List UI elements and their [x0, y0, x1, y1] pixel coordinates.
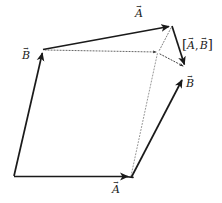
- a-top-vector: [43, 27, 169, 50]
- label-a-top: A: [135, 8, 143, 19]
- dotted-construction-lines: [45, 28, 183, 176]
- figure-canvas: A A B B [A, B]: [0, 0, 222, 203]
- solid-vector-lines: [14, 26, 184, 177]
- dotted-a-horizontal: [45, 50, 156, 52]
- commutator-a-text: A: [187, 40, 195, 51]
- dotted-gap-to-tip: [160, 54, 183, 66]
- label-a-bottom-text: A: [112, 184, 120, 195]
- label-a-top-text: A: [135, 8, 143, 19]
- label-commutator-bracket: [A, B]: [182, 38, 213, 51]
- label-a-bottom: A: [112, 184, 120, 195]
- bracket-close-icon: ]: [208, 37, 213, 52]
- label-b-left-text: B: [22, 50, 30, 61]
- b-left-vector: [14, 53, 42, 176]
- label-b-right: B: [186, 78, 194, 89]
- label-b-left: B: [22, 50, 30, 61]
- dotted-b-diagonal: [131, 54, 157, 177]
- b-right-vector: [132, 80, 183, 177]
- vector-commutator-diagram: [0, 0, 222, 203]
- dotted-top-right-edge: [159, 28, 171, 51]
- commutator-b-text: B: [200, 40, 208, 51]
- commutator-separator: ,: [195, 39, 199, 52]
- label-b-right-text: B: [186, 78, 194, 89]
